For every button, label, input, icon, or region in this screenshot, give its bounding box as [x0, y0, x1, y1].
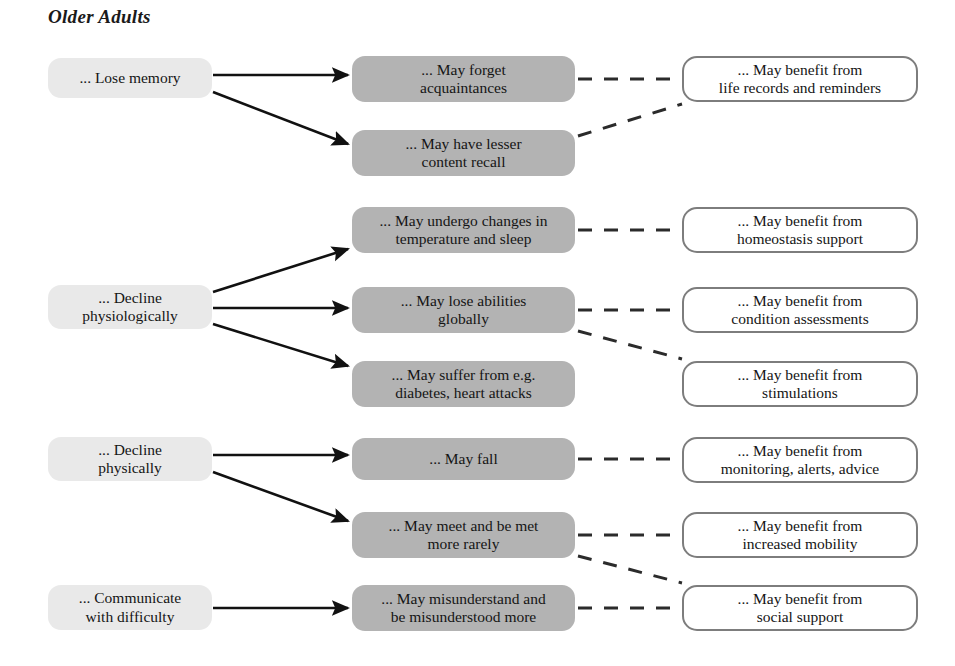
- node-label: ... May suffer from e.g. diabetes, heart…: [360, 366, 567, 403]
- benefit-node-b5[interactable]: ... May benefit from monitoring, alerts,…: [682, 437, 918, 483]
- effect-node-e7[interactable]: ... May meet and be met more rarely: [352, 512, 575, 558]
- node-label: ... Decline physically: [56, 441, 204, 478]
- node-label: ... May forget acquaintances: [360, 61, 567, 98]
- node-label: ... May meet and be met more rarely: [360, 517, 567, 554]
- cause-node-c3[interactable]: ... Decline physically: [48, 437, 212, 481]
- dashed-link-e4-to-b4: [578, 331, 682, 359]
- effect-node-e8[interactable]: ... May misunderstand and be misundersto…: [352, 585, 575, 631]
- node-label: ... May benefit from monitoring, alerts,…: [692, 442, 908, 479]
- benefit-node-b1[interactable]: ... May benefit from life records and re…: [682, 56, 918, 102]
- arrow-c1-to-e2: [213, 92, 348, 144]
- benefit-node-b3[interactable]: ... May benefit from condition assessmen…: [682, 287, 918, 333]
- node-label: ... May benefit from stimulations: [692, 366, 908, 403]
- dashed-link-e2-to-b1: [578, 104, 682, 136]
- node-label: ... May benefit from increased mobility: [692, 517, 908, 554]
- arrow-c2-to-e5: [213, 324, 348, 366]
- node-label: ... Lose memory: [56, 69, 204, 87]
- node-label: ... May benefit from condition assessmen…: [692, 292, 908, 329]
- cause-node-c4[interactable]: ... Communicate with difficulty: [48, 585, 212, 630]
- effect-node-e3[interactable]: ... May undergo changes in temperature a…: [352, 207, 575, 253]
- node-label: ... Decline physiologically: [56, 289, 204, 326]
- dashed-link-e7-to-b7: [578, 556, 682, 583]
- benefit-node-b6[interactable]: ... May benefit from increased mobility: [682, 512, 918, 558]
- benefit-node-b2[interactable]: ... May benefit from homeostasis support: [682, 207, 918, 253]
- cause-node-c1[interactable]: ... Lose memory: [48, 58, 212, 98]
- node-label: ... May benefit from homeostasis support: [692, 212, 908, 249]
- node-label: ... May have lesser content recall: [360, 135, 567, 172]
- benefit-node-b4[interactable]: ... May benefit from stimulations: [682, 361, 918, 407]
- effect-node-e1[interactable]: ... May forget acquaintances: [352, 56, 575, 102]
- node-label: ... May lose abilities globally: [360, 292, 567, 329]
- node-label: ... May undergo changes in temperature a…: [360, 212, 567, 249]
- effect-node-e6[interactable]: ... May fall: [352, 438, 575, 480]
- benefit-node-b7[interactable]: ... May benefit from social support: [682, 585, 918, 631]
- node-label: ... Communicate with difficulty: [56, 589, 204, 626]
- diagram-canvas: Older Adults ... Lose memory... Decline …: [0, 0, 955, 666]
- node-label: ... May misunderstand and be misundersto…: [360, 590, 567, 627]
- diagram-title: Older Adults: [48, 6, 151, 28]
- cause-node-c2[interactable]: ... Decline physiologically: [48, 285, 212, 329]
- arrow-c3-to-e7: [213, 472, 348, 521]
- node-label: ... May benefit from social support: [692, 590, 908, 627]
- effect-node-e2[interactable]: ... May have lesser content recall: [352, 130, 575, 176]
- effect-node-e5[interactable]: ... May suffer from e.g. diabetes, heart…: [352, 361, 575, 407]
- node-label: ... May fall: [360, 450, 567, 468]
- node-label: ... May benefit from life records and re…: [692, 61, 908, 98]
- effect-node-e4[interactable]: ... May lose abilities globally: [352, 287, 575, 333]
- arrow-c2-to-e3: [213, 249, 348, 292]
